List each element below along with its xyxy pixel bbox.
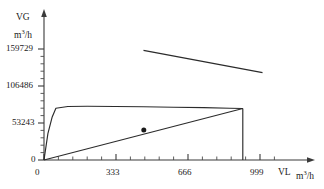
x-tick-label-333: 333: [106, 168, 120, 177]
y-tick-label-106486: 106486: [6, 81, 33, 90]
x-axis-title: VL: [278, 168, 291, 178]
x-tick-label-666: 666: [178, 168, 192, 177]
y-tick-label-53243: 53243: [12, 118, 35, 127]
y-axis-title: VG: [16, 13, 30, 23]
series-operating-point-marker: [141, 128, 146, 133]
series-upper-line: [144, 50, 263, 72]
y-axis-major-ticks: [38, 49, 44, 160]
y-tick-label-0: 0: [31, 155, 36, 164]
x-axis-unit: m3/h: [296, 170, 314, 182]
y-axis-unit-tail: /h: [25, 30, 32, 40]
x-axis-major-ticks: [44, 154, 260, 160]
x-axis-unit-tail: /h: [307, 171, 314, 181]
x-tick-label-0: 0: [35, 168, 40, 177]
chart-container: VG m3/h 159729 106486 53243 0 0 333 666 …: [0, 0, 324, 189]
y-axis-unit: m3/h: [14, 29, 32, 41]
x-tick-label-999: 999: [250, 168, 264, 177]
chart-plot-area: [0, 0, 324, 189]
series-diagonal-line: [44, 109, 243, 161]
y-tick-label-159729: 159729: [6, 44, 33, 53]
